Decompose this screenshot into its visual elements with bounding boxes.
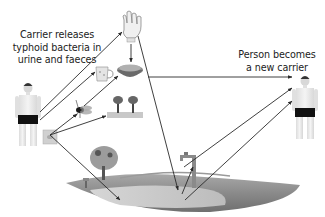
fly-icon bbox=[75, 100, 92, 118]
arrow-faeces-to-fly bbox=[50, 114, 77, 135]
transmission-diagram bbox=[0, 0, 325, 217]
food-bowl-icon bbox=[117, 65, 143, 78]
arrow-tap-to-new-carrier bbox=[184, 88, 292, 167]
new-carrier-person-icon bbox=[292, 76, 318, 139]
arrow-carrier-to-hand bbox=[40, 32, 122, 112]
cup-icon bbox=[96, 67, 113, 81]
tree-icon bbox=[90, 146, 118, 180]
faeces-icon bbox=[43, 130, 57, 144]
carrier-person-icon bbox=[15, 83, 41, 146]
crops-icon bbox=[107, 96, 143, 118]
arrow-faeces-to-crops bbox=[50, 116, 106, 135]
arrow-hand-to-water bbox=[138, 36, 178, 190]
